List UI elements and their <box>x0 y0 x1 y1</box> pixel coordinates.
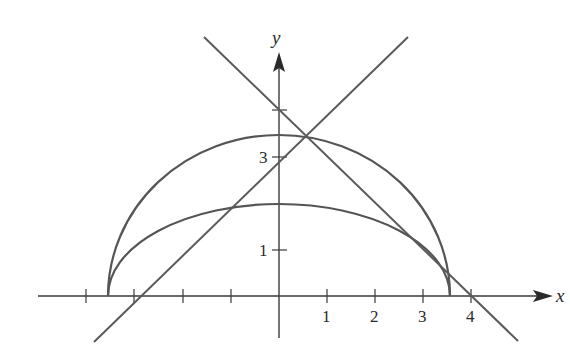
y-axis-label: y <box>270 27 281 48</box>
y-tick-label-1: 1 <box>259 241 268 260</box>
math-figure: x y 1 2 3 4 1 3 <box>0 0 570 358</box>
x-tick-label-4: 4 <box>466 307 475 326</box>
y-tick-label-3: 3 <box>259 148 268 167</box>
x-tick-label-2: 2 <box>370 307 379 326</box>
x-axis-label: x <box>555 285 565 306</box>
x-tick-label-1: 1 <box>322 307 331 326</box>
x-tick-label-3: 3 <box>418 307 427 326</box>
plot-canvas: x y 1 2 3 4 1 3 <box>0 0 570 358</box>
